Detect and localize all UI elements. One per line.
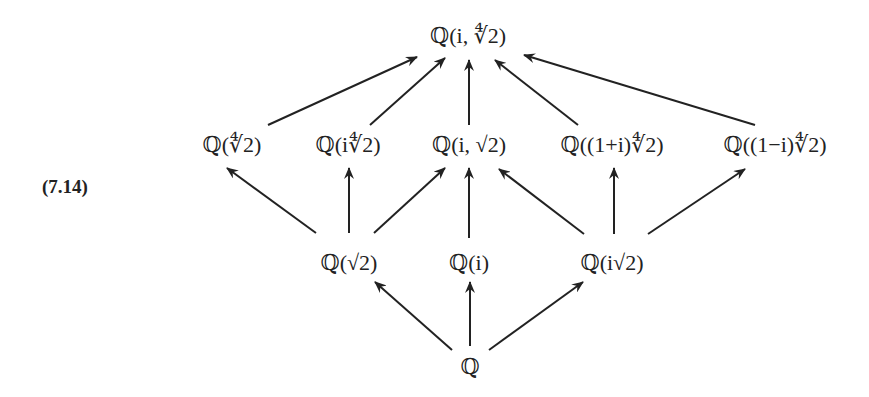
- node-q-1-minus-i-fourth-root-2: ℚ((1−i)∜2): [723, 132, 826, 158]
- node-q-1-plus-i-fourth-root-2: ℚ((1+i)∜2): [560, 132, 663, 158]
- node-q-i-sqrt-2-product: ℚ(i√2): [580, 250, 643, 276]
- node-q-i-sqrt-2: ℚ(i, √2): [432, 132, 506, 158]
- node-q-i-fourth-root-2-product: ℚ(i∜2): [316, 132, 381, 158]
- node-q-fourth-root-2: ℚ(∜2): [203, 132, 262, 158]
- lattice-arrows: [0, 0, 869, 397]
- node-q-i: ℚ(i): [449, 250, 489, 276]
- node-q: ℚ: [460, 354, 479, 380]
- node-q-sqrt-2: ℚ(√2): [321, 250, 378, 276]
- node-q-i-fourth-root-2: ℚ(i, ∜2): [430, 23, 506, 49]
